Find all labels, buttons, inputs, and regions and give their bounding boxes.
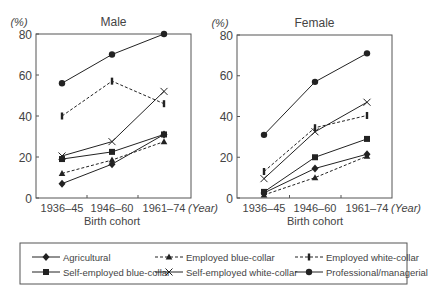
square-marker-icon — [364, 136, 370, 142]
x-axis-unit: (Year) — [188, 202, 218, 214]
circle-marker-icon — [161, 31, 167, 37]
x-marker-icon — [161, 88, 168, 95]
legend: AgriculturalEmployed blue-collarEmployed… — [20, 243, 428, 284]
x-axis-label: Birth cohort — [84, 215, 140, 227]
square-marker-icon — [261, 189, 267, 195]
plot-frame — [36, 34, 191, 198]
legend-label: Employed white-collar — [326, 252, 419, 263]
x-tick-label: 1946–60 — [91, 202, 134, 214]
panel-title: Female — [294, 16, 334, 30]
circle-marker-icon — [261, 132, 267, 138]
diamond-marker-icon — [59, 180, 66, 188]
chart-figure: Male(%)0204060801936–451946–601961–74(Ye… — [0, 0, 428, 300]
panel-title: Male — [100, 15, 126, 29]
legend-label: Agricultural — [63, 252, 111, 263]
x-axis-unit: (Year) — [391, 202, 421, 214]
male-panel: Male(%)0204060801936–451946–601961–74(Ye… — [10, 15, 218, 227]
square-marker-icon — [161, 131, 167, 137]
legend-box — [20, 243, 407, 284]
x-tick-label: 1936–45 — [41, 202, 84, 214]
series-employed-white-collar — [61, 78, 165, 120]
bar-marker-icon — [163, 100, 165, 107]
triangle-marker-icon — [109, 157, 116, 163]
y-tick-label: 40 — [220, 110, 234, 124]
bar-marker-icon — [314, 124, 316, 131]
circle-marker-icon — [109, 51, 115, 57]
circle-marker-icon — [306, 269, 312, 275]
x-tick-label: 1961–74 — [143, 202, 186, 214]
y-tick-label: 40 — [19, 110, 33, 124]
bar-marker-icon — [61, 113, 63, 120]
bar-marker-icon — [308, 254, 310, 261]
bar-marker-icon — [366, 112, 368, 119]
legend-label: Professional/managerial — [326, 267, 428, 278]
series-self-employed-white-collar — [59, 88, 168, 160]
square-marker-icon — [43, 269, 49, 275]
y-tick-label: 20 — [19, 151, 33, 165]
y-axis-unit: (%) — [211, 17, 228, 29]
circle-marker-icon — [312, 79, 318, 85]
x-tick-label: 1946–60 — [294, 202, 337, 214]
x-marker-icon — [364, 99, 371, 106]
circle-marker-icon — [364, 50, 370, 56]
bar-marker-icon — [263, 168, 265, 175]
square-marker-icon — [109, 149, 115, 155]
y-tick-label: 60 — [220, 69, 234, 83]
y-tick-label: 60 — [19, 69, 33, 83]
x-tick-label: 1936–45 — [243, 202, 286, 214]
female-panel: Female(%)0204060801936–451946–601961–74(… — [211, 16, 421, 227]
y-axis-unit: (%) — [10, 16, 27, 28]
legend-label: Employed blue-collar — [186, 252, 275, 263]
y-tick-label: 0 — [226, 192, 233, 206]
legend-label: Self-employed white-collar — [186, 267, 297, 278]
circle-marker-icon — [59, 80, 65, 86]
square-marker-icon — [59, 156, 65, 162]
x-marker-icon — [261, 175, 268, 182]
bar-marker-icon — [111, 78, 113, 85]
y-tick-label: 20 — [220, 151, 234, 165]
triangle-marker-icon — [161, 138, 168, 144]
y-tick-label: 80 — [19, 28, 33, 42]
y-tick-label: 0 — [25, 192, 32, 206]
diamond-marker-icon — [312, 164, 319, 172]
legend-label: Self-employed blue-collar — [63, 267, 170, 278]
x-marker-icon — [109, 138, 116, 145]
x-tick-label: 1961–74 — [346, 202, 389, 214]
y-tick-label: 80 — [220, 29, 234, 43]
plot-frame — [237, 35, 392, 198]
square-marker-icon — [312, 154, 318, 160]
x-axis-label: Birth cohort — [287, 215, 343, 227]
